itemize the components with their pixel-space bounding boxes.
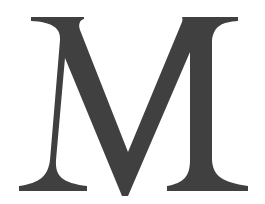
letter-m-glyph (0, 0, 265, 204)
letter-m-shape (19, 17, 248, 196)
canvas: M (0, 0, 265, 204)
